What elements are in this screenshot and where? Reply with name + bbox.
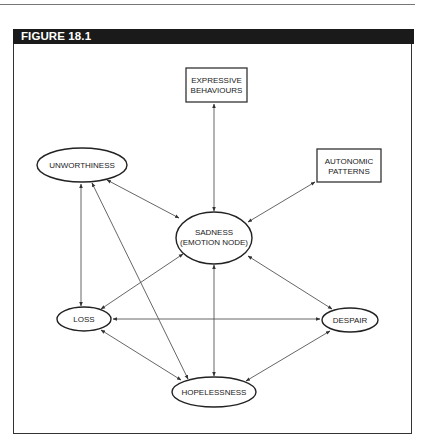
node-despair-label: DESPAIR (333, 316, 368, 325)
node-expressive-behaviours: EXPRESSIVE BEHAVIOURS (186, 68, 247, 102)
edge-despair-hopelessness (246, 331, 330, 381)
node-autonomic-line2: PATTERNS (328, 167, 369, 176)
edge-autonomic-sadness (248, 182, 315, 222)
edge-sadness-loss (101, 254, 183, 309)
node-autonomic-line1: AUTONOMIC (325, 157, 374, 166)
edge-sadness-despair (248, 256, 332, 309)
node-despair: DESPAIR (322, 308, 378, 332)
edge-unworthiness-sadness (107, 180, 179, 218)
diagram-canvas: EXPRESSIVE BEHAVIOURS AUTONOMIC PATTERNS… (0, 0, 430, 442)
edge-loss-hopelessness (101, 330, 181, 380)
node-sadness: SADNESS (EMOTION NODE) (176, 212, 252, 264)
node-unworthiness-label: UNWORTHINESS (49, 161, 115, 170)
node-hopelessness-label: HOPELESSNESS (182, 388, 247, 397)
edge-unworthiness-hopelessness (92, 183, 188, 379)
node-hopelessness: HOPELESSNESS (172, 377, 256, 407)
node-autonomic-patterns: AUTONOMIC PATTERNS (317, 149, 381, 182)
node-sadness-line1: SADNESS (195, 228, 233, 237)
node-loss: LOSS (57, 307, 111, 331)
node-loss-label: LOSS (73, 315, 94, 324)
node-sadness-line2: (EMOTION NODE) (180, 238, 248, 247)
node-unworthiness: UNWORTHINESS (37, 148, 127, 182)
node-expressive-line1: EXPRESSIVE (191, 76, 242, 85)
node-expressive-line2: BEHAVIOURS (191, 86, 243, 95)
